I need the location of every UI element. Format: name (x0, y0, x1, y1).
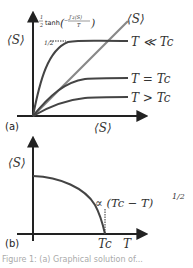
figure: ⟨S⟩ ⟨S⟩ (a) 1 2 tanh ( − J′z⟨S⟩ T ) 1/2 … (0, 0, 193, 268)
panel-a-label-high-t: T > Tc (131, 91, 171, 105)
svg-text:T: T (77, 22, 81, 28)
svg-text:J′z⟨S⟩: J′z⟨S⟩ (68, 14, 82, 21)
panel-a-function-annotation: 1 2 tanh ( − J′z⟨S⟩ T ) (39, 14, 95, 30)
panel-b-tc-label: Tc (98, 237, 112, 251)
panel-b-law-label: ∝ (Tc − T) (95, 196, 153, 210)
panel-a: ⟨S⟩ ⟨S⟩ (a) 1 2 tanh ( − J′z⟨S⟩ T ) 1/2 … (5, 12, 174, 135)
panel-a-label-tc: T = Tc (131, 72, 171, 86)
panel-b-law-exponent: 1/2 (172, 192, 185, 201)
svg-text:tanh: tanh (45, 19, 60, 27)
svg-text:−: − (64, 17, 68, 23)
panel-a-label-low-t: T ≪ Tc (131, 35, 174, 49)
panel-a-tag: (a) (5, 121, 19, 132)
panel-b-y-label: ⟨S⟩ (8, 156, 26, 170)
svg-text:1: 1 (40, 14, 43, 20)
panel-a-x-label: ⟨S⟩ (94, 121, 112, 135)
panel-b-tag: (b) (5, 238, 19, 249)
svg-text:): ) (90, 17, 95, 30)
panel-a-half-label: 1/2 (44, 39, 54, 46)
panel-b: ⟨S⟩ T Tc (b) ∝ (Tc − T) 1/2 (5, 138, 185, 251)
panel-a-y-label: ⟨S⟩ (7, 33, 25, 47)
svg-text:2: 2 (39, 22, 43, 28)
panel-b-x-label: T (123, 237, 132, 251)
figure-caption: Figure 1: (a) Graphical solution of... (2, 255, 143, 264)
panel-a-identity-line (33, 21, 128, 116)
panel-a-line-label: ⟨S⟩ (127, 12, 145, 26)
